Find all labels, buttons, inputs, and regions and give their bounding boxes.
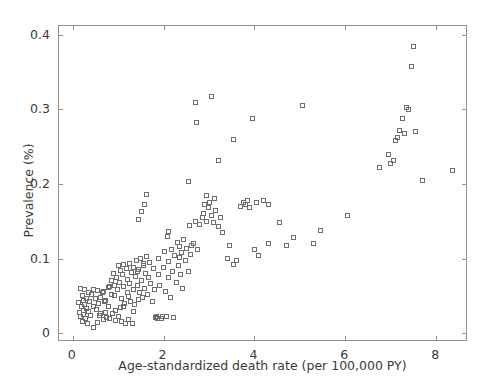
data-point (156, 272, 161, 277)
data-point (135, 269, 140, 274)
data-point (142, 202, 147, 207)
data-point (91, 325, 96, 330)
data-point (245, 198, 250, 203)
data-point (291, 235, 296, 240)
data-point (124, 266, 129, 271)
data-point (250, 116, 255, 121)
data-point (266, 241, 271, 246)
data-point (148, 281, 153, 286)
data-point (112, 293, 117, 298)
data-point (174, 280, 179, 285)
data-point (157, 283, 162, 288)
data-point (345, 213, 350, 218)
data-point (231, 262, 236, 267)
y-tick-mark (462, 259, 466, 260)
x-tick-mark (164, 26, 165, 30)
data-point (162, 249, 167, 254)
x-tick-mark (436, 26, 437, 30)
data-point (166, 275, 171, 280)
data-point (189, 243, 194, 248)
data-point (144, 254, 149, 259)
data-point (177, 244, 182, 249)
data-point (186, 179, 191, 184)
y-tick-label: 0 (8, 325, 50, 340)
data-point (178, 272, 183, 277)
plot-data-area (59, 26, 466, 340)
data-point (254, 200, 259, 205)
data-point (391, 158, 396, 163)
plot-axes-frame (58, 25, 467, 341)
data-point (176, 263, 181, 268)
data-point (206, 205, 211, 210)
data-point (132, 302, 137, 307)
data-point (218, 215, 223, 220)
data-point (156, 256, 161, 261)
data-point (146, 275, 151, 280)
y-tick-mark (59, 184, 63, 185)
data-point (101, 289, 106, 294)
data-point (386, 152, 391, 157)
data-point (277, 220, 282, 225)
x-tick-mark (436, 336, 437, 340)
data-point (144, 192, 149, 197)
data-point (180, 286, 185, 291)
data-point (266, 202, 271, 207)
data-point (177, 255, 182, 260)
y-tick-mark (462, 333, 466, 334)
data-point (141, 261, 146, 266)
data-point (142, 286, 147, 291)
data-point (145, 292, 150, 297)
data-point (139, 278, 144, 283)
data-point (311, 241, 316, 246)
x-tick-mark (73, 26, 74, 30)
x-axis-label: Age-standardized death rate (per 100,000… (58, 358, 467, 373)
data-point (150, 299, 155, 304)
data-point (130, 321, 135, 326)
x-tick-mark (345, 336, 346, 340)
y-tick-label: 0.4 (8, 26, 50, 41)
data-point (209, 94, 214, 99)
y-tick-mark (59, 35, 63, 36)
x-tick-mark (254, 26, 255, 30)
data-point (85, 321, 90, 326)
y-tick-mark (59, 259, 63, 260)
data-point (450, 168, 455, 173)
data-point (284, 243, 289, 248)
data-point (252, 247, 257, 252)
data-point (209, 213, 214, 218)
data-point (181, 237, 186, 242)
data-point (96, 301, 101, 306)
x-tick-mark (254, 336, 255, 340)
data-point (409, 64, 414, 69)
data-point (171, 315, 176, 320)
data-point (184, 246, 189, 251)
data-point (126, 294, 131, 299)
y-tick-mark (462, 35, 466, 36)
data-point (216, 224, 221, 229)
data-point (234, 258, 239, 263)
data-point (406, 107, 411, 112)
data-point (131, 309, 136, 314)
data-point (212, 196, 217, 201)
data-point (201, 211, 206, 216)
data-point (247, 205, 252, 210)
data-point (135, 283, 140, 288)
data-point (147, 260, 152, 265)
data-point (170, 269, 175, 274)
data-point (106, 304, 111, 309)
x-tick-mark (345, 26, 346, 30)
data-point (121, 304, 126, 309)
data-point (163, 289, 168, 294)
data-point (300, 103, 305, 108)
data-point (107, 284, 112, 289)
data-point (165, 234, 170, 239)
data-point (88, 313, 93, 318)
x-tick-mark (164, 336, 165, 340)
data-point (197, 222, 202, 227)
data-point (188, 252, 193, 257)
data-point (166, 229, 171, 234)
data-point (204, 219, 209, 224)
data-point (152, 287, 157, 292)
data-point (231, 137, 236, 142)
data-point (194, 120, 199, 125)
